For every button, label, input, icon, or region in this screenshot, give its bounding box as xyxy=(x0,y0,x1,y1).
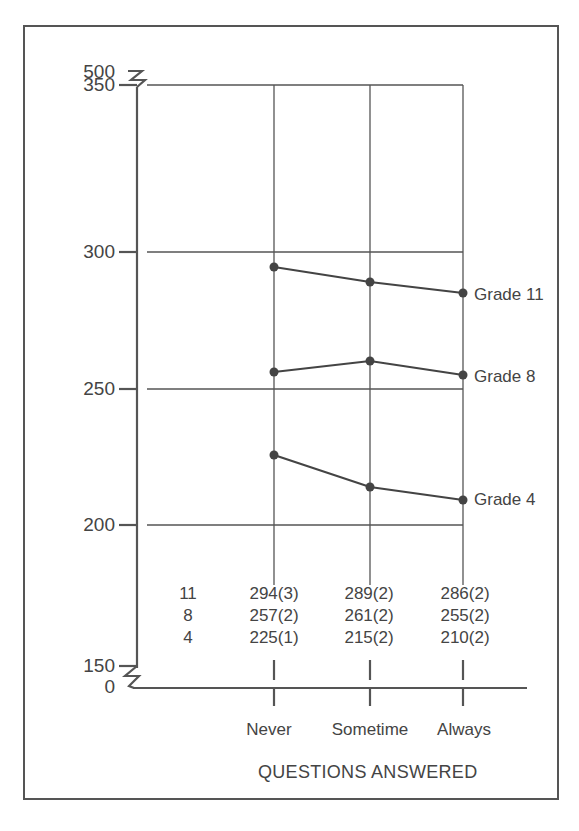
y-tick-250: 250 xyxy=(55,378,115,400)
table-cell: 294(3) xyxy=(234,584,314,604)
y-tick-200: 200 xyxy=(55,514,115,536)
y-tick-0: 0 xyxy=(55,676,115,698)
table-grade-4: 4 xyxy=(148,628,228,648)
series-label-grade-8: Grade 8 xyxy=(474,367,535,387)
x-axis-title: QUESTIONS ANSWERED xyxy=(258,762,477,783)
table-cell: 257(2) xyxy=(234,606,314,626)
chart-plot xyxy=(0,0,579,831)
y-tick-300: 300 xyxy=(55,241,115,263)
table-cell: 289(2) xyxy=(329,584,409,604)
series-label-grade-11: Grade 11 xyxy=(474,285,544,305)
series-grade-4 xyxy=(274,455,463,500)
x-label-never: Never xyxy=(219,720,319,740)
x-label-sometime: Sometime xyxy=(320,720,420,740)
table-cell: 286(2) xyxy=(425,584,505,604)
y-tick-150: 150 xyxy=(55,655,115,677)
gridlines xyxy=(147,85,463,585)
table-cell: 210(2) xyxy=(425,628,505,648)
table-grade-11: 11 xyxy=(148,584,228,604)
table-cell: 225(1) xyxy=(234,628,314,648)
y-axis xyxy=(119,71,145,688)
table-cell: 261(2) xyxy=(329,606,409,626)
x-label-always: Always xyxy=(414,720,514,740)
table-cell: 255(2) xyxy=(425,606,505,626)
table-grade-8: 8 xyxy=(148,606,228,626)
series-label-grade-4: Grade 4 xyxy=(474,490,535,510)
x-axis xyxy=(133,660,527,706)
y-tick-350: 350 xyxy=(55,74,115,96)
table-cell: 215(2) xyxy=(329,628,409,648)
